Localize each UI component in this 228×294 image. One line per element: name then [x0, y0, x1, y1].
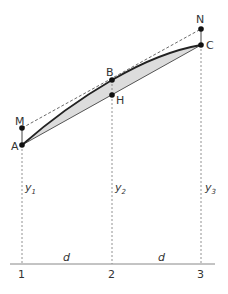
label-a: A: [11, 140, 19, 153]
point-n: [198, 26, 204, 32]
station-2: 2: [108, 268, 115, 281]
label-h: H: [116, 94, 124, 107]
label-c: C: [206, 39, 214, 52]
label-y3: y3: [204, 181, 216, 196]
point-c: [198, 42, 204, 48]
label-m: M: [15, 115, 25, 128]
label-y1: y1: [24, 181, 36, 196]
point-h: [109, 92, 115, 98]
label-n: N: [196, 13, 204, 26]
label-b: B: [106, 66, 114, 79]
label-d-2: d: [158, 251, 166, 264]
station-3: 3: [197, 268, 204, 281]
label-d-1: d: [63, 251, 71, 264]
simpsons-rule-diagram: A M B H C N y1 y2 y3 d d 1 2 3: [0, 0, 228, 294]
station-1: 1: [18, 268, 25, 281]
point-a: [19, 142, 25, 148]
label-y2: y2: [114, 181, 127, 196]
